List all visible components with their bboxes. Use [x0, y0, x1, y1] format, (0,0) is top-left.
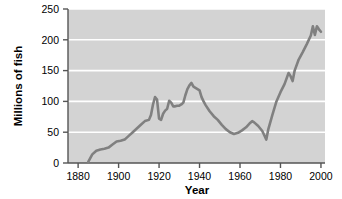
- y-tick-label: 250: [41, 3, 59, 15]
- x-tick-label: 2000: [309, 170, 333, 182]
- x-tick-label: 1960: [228, 170, 252, 182]
- chart-figure: 050100150200250 188019001920194019601980…: [0, 0, 342, 199]
- x-tick-label: 1980: [269, 170, 293, 182]
- plot-area-background: [68, 9, 325, 163]
- x-axis-label: Year: [185, 184, 210, 196]
- y-tick-label: 150: [41, 64, 59, 76]
- x-tick-label: 1900: [107, 170, 131, 182]
- y-axis-label: Millions of fish: [12, 46, 24, 127]
- y-tick-label: 200: [41, 34, 59, 46]
- x-tick-label: 1920: [147, 170, 171, 182]
- x-tick-label: 1940: [188, 170, 212, 182]
- y-tick-label: 100: [41, 95, 59, 107]
- y-tick-label: 0: [53, 157, 59, 169]
- x-tick-label: 1880: [66, 170, 90, 182]
- fish-catch-line-chart: 050100150200250 188019001920194019601980…: [0, 0, 342, 199]
- y-tick-label: 50: [47, 126, 59, 138]
